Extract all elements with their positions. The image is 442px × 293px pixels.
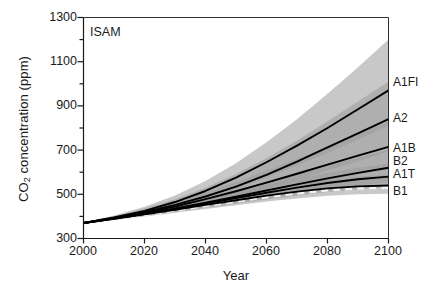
- plot-canvas: [0, 0, 442, 293]
- plot-series-group: [84, 40, 389, 224]
- co2-concentration-chart: CO2 concentration (ppm) 1300 1100 900 70…: [0, 0, 442, 293]
